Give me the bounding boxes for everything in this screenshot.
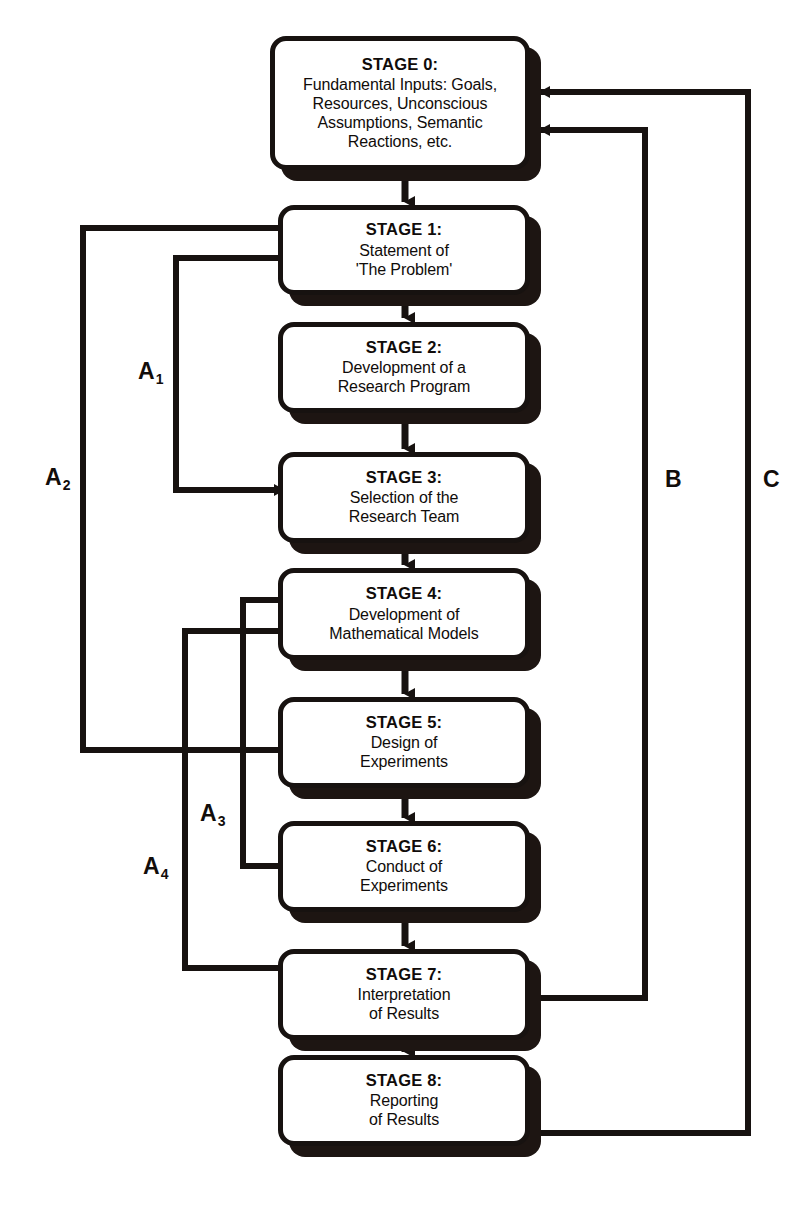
stage-box-6[interactable]: STAGE 6: Conduct of Experiments <box>278 821 530 912</box>
stage-2-body: Development of a Research Program <box>329 359 480 397</box>
feedback-path-b <box>530 130 645 998</box>
stage-4-body: Development of Mathematical Models <box>320 606 487 644</box>
stage-2-title: STAGE 2: <box>366 338 442 356</box>
stage-6-title: STAGE 6: <box>366 837 442 855</box>
stage-box-1[interactable]: STAGE 1: Statement of 'The Problem' <box>278 205 530 295</box>
stage-6-body: Conduct of Experiments <box>351 858 457 896</box>
loop-label-c: C <box>763 468 780 491</box>
stage-box-8[interactable]: STAGE 8: Reporting of Results <box>278 1055 530 1146</box>
flowchart-diagram: STAGE 0: Fundamental Inputs: Goals, Reso… <box>0 0 806 1230</box>
stage-box-3[interactable]: STAGE 3: Selection of the Research Team <box>278 452 530 543</box>
stage-box-2[interactable]: STAGE 2: Development of a Research Progr… <box>278 322 530 413</box>
stage-box-4[interactable]: STAGE 4: Development of Mathematical Mod… <box>278 568 530 660</box>
loop-label-a3: A3 <box>200 802 224 825</box>
stage-box-5[interactable]: STAGE 5: Design of Experiments <box>278 697 530 788</box>
stage-3-body: Selection of the Research Team <box>340 489 468 527</box>
loop-label-a2: A2 <box>45 466 69 489</box>
stage-5-body: Design of Experiments <box>351 734 457 772</box>
stage-box-0[interactable]: STAGE 0: Fundamental Inputs: Goals, Reso… <box>270 36 530 170</box>
stage-1-body: Statement of 'The Problem' <box>347 242 461 280</box>
stage-0-body: Fundamental Inputs: Goals, Resources, Un… <box>294 76 506 152</box>
feedback-path-c <box>530 92 748 1133</box>
stage-4-title: STAGE 4: <box>366 584 442 602</box>
stage-7-body: Interpretation of Results <box>349 986 460 1024</box>
loop-label-a1: A1 <box>138 360 162 383</box>
stage-8-title: STAGE 8: <box>366 1071 442 1089</box>
loop-label-a4: A4 <box>143 855 167 878</box>
stage-1-title: STAGE 1: <box>366 220 442 238</box>
loop-label-b: B <box>665 468 682 491</box>
stage-box-7[interactable]: STAGE 7: Interpretation of Results <box>278 949 530 1040</box>
stage-0-title: STAGE 0: <box>362 55 438 73</box>
stage-3-title: STAGE 3: <box>366 468 442 486</box>
stage-7-title: STAGE 7: <box>366 965 442 983</box>
stage-5-title: STAGE 5: <box>366 713 442 731</box>
feedback-path-a1 <box>176 258 284 490</box>
stage-8-body: Reporting of Results <box>360 1092 448 1130</box>
